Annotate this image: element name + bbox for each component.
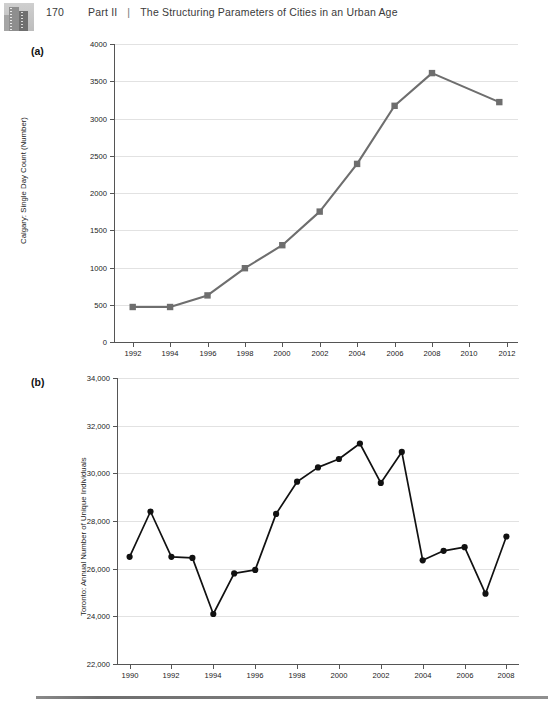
data-point-marker [189, 555, 195, 561]
data-point-marker [210, 611, 216, 617]
data-point-marker [231, 570, 237, 576]
data-point-marker [482, 591, 488, 597]
data-point-marker [357, 440, 363, 446]
data-point-marker [399, 449, 405, 455]
footer-rule [36, 696, 548, 699]
data-point-marker [252, 567, 258, 573]
data-point-marker [378, 480, 384, 486]
data-point-marker [441, 548, 447, 554]
data-point-marker [420, 557, 426, 563]
chart-toronto-unique-individuals: 22,00024,00026,00028,00030,00032,00034,0… [0, 0, 554, 700]
data-point-marker [273, 511, 279, 517]
data-point-marker [315, 464, 321, 470]
data-series [0, 0, 554, 700]
data-point-marker [462, 544, 468, 550]
data-point-marker [127, 554, 133, 560]
data-point-marker [147, 508, 153, 514]
data-point-marker [294, 479, 300, 485]
data-point-marker [336, 456, 342, 462]
data-point-marker [503, 533, 509, 539]
page-canvas: 170Part II|The Structuring Parameters of… [0, 0, 554, 711]
data-point-marker [168, 554, 174, 560]
